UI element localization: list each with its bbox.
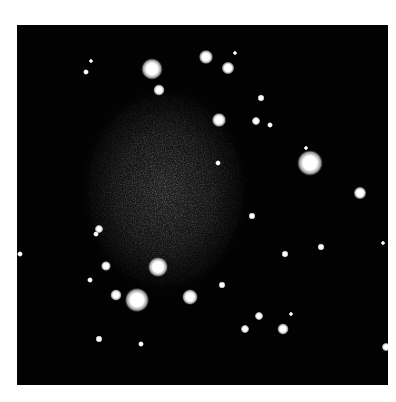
- star-core: [140, 343, 143, 346]
- star-core: [217, 162, 220, 165]
- galaxy-photograph: [17, 25, 388, 385]
- star-core: [215, 116, 223, 124]
- star-core: [382, 242, 384, 244]
- star-core: [97, 227, 102, 232]
- star-core: [254, 119, 259, 124]
- star-core: [113, 292, 119, 298]
- star-core: [357, 190, 364, 197]
- star-core: [153, 262, 164, 273]
- star-core: [305, 147, 307, 149]
- star-core: [243, 327, 248, 332]
- star-core: [269, 124, 272, 127]
- star-core: [234, 52, 236, 54]
- star-core: [19, 253, 22, 256]
- star-core: [319, 245, 323, 249]
- star-core: [283, 252, 287, 256]
- star-core: [280, 326, 286, 332]
- star-core: [257, 314, 262, 319]
- star-core: [103, 263, 108, 268]
- star-core: [97, 337, 101, 341]
- star-field: [17, 25, 388, 385]
- star-core: [146, 63, 157, 74]
- star-core: [220, 283, 224, 287]
- star-core: [89, 279, 92, 282]
- star-core: [225, 65, 232, 72]
- star-core: [90, 60, 92, 62]
- star-core: [85, 71, 88, 74]
- star-core: [186, 293, 194, 301]
- star-core: [131, 294, 144, 307]
- star-core: [250, 214, 254, 218]
- star-core: [95, 233, 98, 236]
- star-core: [156, 87, 162, 93]
- star-core: [259, 96, 263, 100]
- star-core: [290, 313, 292, 315]
- star-core: [303, 156, 317, 170]
- star-core: [202, 53, 210, 61]
